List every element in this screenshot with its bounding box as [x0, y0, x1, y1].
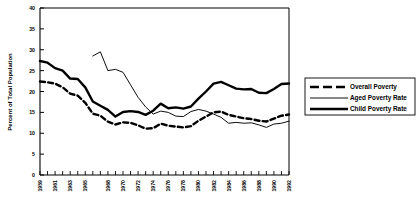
- legend-label-1: Aged Poverty Rate: [350, 94, 407, 102]
- x-tick-label: 1970: [120, 180, 126, 192]
- y-tick-label: 0: [32, 172, 35, 178]
- x-tick-label: 1965: [82, 180, 88, 192]
- x-tick-label: 1980: [195, 180, 201, 192]
- x-tick-label: 1963: [67, 180, 73, 192]
- x-tick-label: 1968: [105, 180, 111, 192]
- x-tick-label: 1974: [150, 180, 156, 192]
- legend: Overall PovertyAged Poverty RateChild Po…: [305, 78, 415, 115]
- poverty-rate-line-chart: 0510152025303540 19591961196319651968197…: [0, 0, 420, 220]
- y-tick-label: 10: [29, 130, 35, 136]
- x-tick-label: 1976: [165, 180, 171, 192]
- x-tick-label: 1972: [135, 180, 141, 192]
- y-tick-label: 5: [32, 151, 35, 157]
- legend-label-2: Child Poverty Rate: [350, 105, 407, 113]
- x-tick-label: 1982: [211, 180, 217, 192]
- x-tick-label: 1986: [241, 180, 247, 192]
- y-tick-label: 25: [29, 68, 35, 74]
- y-tick-label: 40: [29, 5, 35, 11]
- x-tick-label: 1961: [52, 180, 58, 192]
- x-tick-label: 1978: [180, 180, 186, 192]
- y-tick-label: 30: [29, 47, 35, 53]
- x-tick-label: 1990: [271, 180, 277, 192]
- y-tick-label: 20: [29, 89, 35, 95]
- y-tick-label: 35: [29, 26, 35, 32]
- x-tick-label: 1959: [37, 180, 43, 192]
- x-tick-label: 1992: [286, 180, 292, 192]
- x-tick-label: 1988: [256, 180, 262, 192]
- y-tick-label: 15: [29, 109, 35, 115]
- legend-label-0: Overall Poverty: [350, 83, 397, 91]
- y-axis-title: Percent of Total Population: [7, 53, 13, 131]
- x-tick-label: 1984: [226, 180, 232, 192]
